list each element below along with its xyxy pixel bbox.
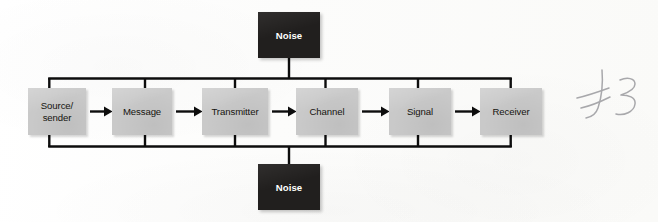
process-box-signal-label: Signal — [405, 106, 435, 118]
communication-process-diagram: Source/ sender Message Transmitter Chann… — [0, 0, 658, 222]
noise-box-top-label: Noise — [274, 30, 305, 41]
process-box-receiver: Receiver — [480, 88, 542, 135]
arrow-source-to-message — [90, 107, 113, 117]
process-box-transmitter: Transmitter — [202, 88, 268, 135]
arrow-message-to-transmitter — [176, 107, 203, 117]
arrow-channel-to-signal — [362, 107, 390, 117]
arrow-transmitter-to-channel — [272, 107, 297, 117]
process-box-signal: Signal — [389, 88, 451, 135]
process-box-channel: Channel — [296, 88, 358, 135]
arrow-signal-to-receiver — [455, 107, 481, 117]
process-box-receiver-label: Receiver — [490, 106, 531, 118]
process-box-message: Message — [112, 88, 172, 135]
noise-box-top: Noise — [258, 12, 320, 58]
process-box-transmitter-label: Transmitter — [209, 106, 260, 118]
process-box-source: Source/ sender — [28, 88, 86, 135]
noise-box-bottom-label: Noise — [274, 182, 305, 193]
process-box-source-label: Source/ sender — [39, 100, 75, 123]
noise-box-bottom: Noise — [258, 164, 320, 210]
process-box-channel-label: Channel — [307, 106, 346, 118]
process-box-message-label: Message — [121, 106, 163, 118]
